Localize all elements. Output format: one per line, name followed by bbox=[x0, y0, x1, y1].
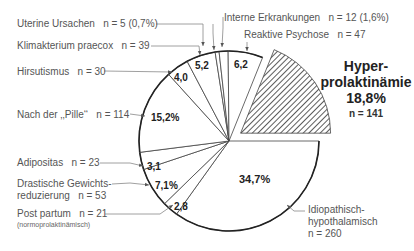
pct-reaktive: 6,2 bbox=[234, 59, 248, 70]
label-klimakterium-n: n = 39 bbox=[122, 40, 150, 51]
label-pille-name: Nach der ‚‚Pille‘‘ bbox=[17, 109, 88, 120]
label-uterine-name: Uterine Ursachen bbox=[17, 18, 95, 29]
callout-hirsutismus bbox=[104, 71, 172, 72]
callout-postpartum bbox=[105, 205, 173, 214]
hyper-line2: prolaktinämie bbox=[318, 74, 414, 90]
label-reaktive-n: n = 47 bbox=[337, 29, 365, 40]
label-adipositas-n: n = 23 bbox=[71, 157, 99, 168]
label-adipositas: Adipositas n = 23 bbox=[17, 157, 100, 169]
callout-drastische bbox=[112, 183, 149, 185]
hyper-n: n = 141 bbox=[318, 108, 414, 119]
label-pille-n: n = 114 bbox=[96, 109, 129, 120]
pie-arc-8 bbox=[219, 51, 228, 52]
label-interne-n: n = 12 (1,6%) bbox=[329, 12, 389, 23]
label-drastische-n: n = 53 bbox=[78, 190, 106, 201]
callout-klimakterium bbox=[151, 46, 200, 55]
label-klimakterium-name: Klimakterium praecox bbox=[17, 40, 113, 51]
pct-drastische: 7,1% bbox=[155, 180, 178, 191]
pct-klimakterium: 5,2 bbox=[195, 60, 209, 71]
label-interne-name: Interne Erkrankungen bbox=[224, 12, 320, 23]
label-drastische-line1: Drastische Gewichts- bbox=[17, 178, 111, 190]
label-hyperprolaktinaemie: Hyper- prolaktinämie 18,8% bbox=[318, 58, 414, 106]
label-interne: Interne Erkrankungen n = 12 (1,6%) bbox=[224, 12, 389, 24]
pct-pille: 15,2% bbox=[151, 112, 179, 123]
label-klimakterium: Klimakterium praecox n = 39 bbox=[17, 40, 150, 52]
pct-postpartum: 2,8 bbox=[174, 201, 188, 212]
callout-uterine bbox=[156, 24, 203, 46]
pct-adipositas: 3,1 bbox=[147, 161, 161, 172]
callout-interne bbox=[222, 17, 223, 47]
label-uterine: Uterine Ursachen n = 5 (0,7%) bbox=[17, 18, 158, 30]
pct-hirsutismus: 4,0 bbox=[174, 72, 188, 83]
label-hirsutismus-n: n = 30 bbox=[78, 66, 106, 77]
label-idiopathisch-line1: Idiopathisch- bbox=[308, 204, 377, 216]
label-postpartum-sub: (normoprolaktinämisch) bbox=[17, 220, 107, 229]
pie-slices bbox=[139, 50, 331, 231]
label-postpartum: Post partum n = 21 (normoprolaktinämisch… bbox=[17, 208, 107, 229]
label-adipositas-name: Adipositas bbox=[17, 157, 63, 168]
label-postpartum-name: Post partum bbox=[17, 208, 71, 219]
label-postpartum-n: n = 21 bbox=[79, 208, 107, 219]
pie-arc-7 bbox=[215, 52, 219, 53]
label-idiopathisch-n: n = 260 bbox=[308, 228, 377, 240]
label-idiopathisch: Idiopathisch- hypothalamisch n = 260 bbox=[308, 204, 377, 240]
label-idiopathisch-line2: hypothalamisch bbox=[308, 216, 377, 228]
callout-uterine-2 bbox=[213, 24, 214, 50]
label-reaktive: Reaktive Psychose n = 47 bbox=[244, 29, 365, 41]
label-hirsutismus-name: Hirsutismus bbox=[17, 66, 69, 77]
label-drastische: Drastische Gewichts- reduzierung n = 53 bbox=[17, 178, 111, 202]
pct-idiopathisch: 34,7% bbox=[239, 173, 270, 185]
hyper-percent: 18,8% bbox=[318, 90, 414, 106]
label-reaktive-name: Reaktive Psychose bbox=[244, 29, 329, 40]
callout-adipositas bbox=[100, 163, 143, 166]
label-pille: Nach der ‚‚Pille‘‘ n = 114 bbox=[17, 109, 129, 121]
label-drastische-line2: reduzierung bbox=[17, 190, 70, 201]
hyper-line1: Hyper- bbox=[318, 58, 414, 74]
label-hirsutismus: Hirsutismus n = 30 bbox=[17, 66, 106, 78]
label-uterine-n: n = 5 (0,7%) bbox=[103, 18, 158, 29]
